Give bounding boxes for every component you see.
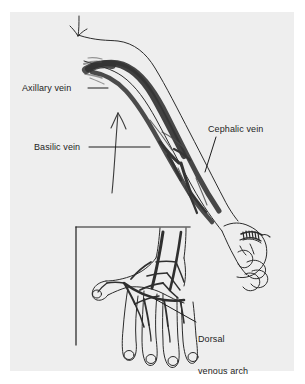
label-dorsal-venous-arch: Dorsal venous arch	[198, 313, 248, 384]
label-cephalic-vein: Cephalic vein	[208, 124, 263, 135]
vein-illustration	[0, 0, 305, 384]
inset-hand-outline	[92, 228, 198, 367]
leader-cephalic	[205, 137, 216, 172]
label-dorsal-line-1: Dorsal	[198, 334, 248, 345]
label-axillary-vein: Axillary vein	[22, 83, 71, 94]
proximal-vein-branch	[70, 16, 87, 36]
inset-frame	[76, 227, 190, 345]
superficial-branch-vein	[111, 113, 126, 193]
label-basilic-vein: Basilic vein	[34, 142, 80, 153]
figure-root: Axillary vein Basilic vein Cephalic vein…	[0, 0, 305, 384]
leader-dorsal	[155, 299, 196, 322]
label-dorsal-line-2: venous arch	[198, 366, 248, 377]
